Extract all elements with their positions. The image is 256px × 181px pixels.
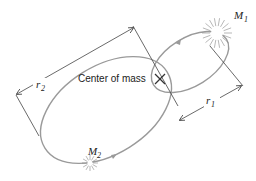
m1-subscript: 1 bbox=[244, 15, 248, 24]
orbit-m2-direction-arrow-icon bbox=[111, 154, 117, 159]
m2-star-icon bbox=[82, 155, 98, 171]
center-of-mass-marker bbox=[155, 74, 165, 84]
orbit-m1 bbox=[141, 19, 239, 105]
binary-orbit-diagram: r 2 r 1 Center of mass bbox=[0, 0, 256, 181]
center-of-mass-label: Center of mass bbox=[78, 73, 146, 84]
r1-subscript: 1 bbox=[211, 100, 215, 109]
m1-label: M bbox=[233, 9, 244, 21]
m1-star-icon bbox=[202, 18, 232, 48]
orbit-m2 bbox=[22, 35, 191, 181]
dimension-r1: r 1 bbox=[180, 46, 243, 120]
m2-subscript: 2 bbox=[97, 151, 101, 160]
r2-subscript: 2 bbox=[41, 84, 45, 93]
